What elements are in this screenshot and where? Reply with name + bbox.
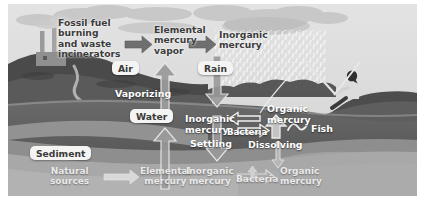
zone-air-label: Air xyxy=(112,61,139,75)
node-elemental-sediment-line1: Elemental xyxy=(140,166,191,176)
node-inorganic-mercury-sediment: Inorganic mercury xyxy=(186,166,234,186)
node-elemental-vapor-line3: vapor xyxy=(154,46,206,56)
node-organic-sediment-line2: mercury xyxy=(280,176,322,186)
node-inorganic-air-line2: mercury xyxy=(219,40,268,50)
node-bacteria-water: Bacteria xyxy=(227,128,267,138)
node-inorganic-sediment-line1: Inorganic xyxy=(186,166,234,176)
zone-water-label: Water xyxy=(130,109,173,123)
process-dissolving: Dissolving xyxy=(248,140,303,151)
zone-rain-label: Rain xyxy=(198,61,233,75)
node-organic-mercury-water: Organic mercury xyxy=(267,104,311,125)
node-organic-sediment-line1: Organic xyxy=(280,166,322,176)
node-elemental-sediment-line2: mercury xyxy=(140,176,191,186)
zone-sediment-label: Sediment xyxy=(30,146,91,160)
node-inorganic-water-line1: Inorganic xyxy=(185,114,235,125)
node-inorganic-sediment-line2: mercury xyxy=(186,176,234,186)
node-organic-mercury-sediment: Organic mercury xyxy=(280,166,322,186)
node-natural-sources-line2: sources xyxy=(50,176,89,186)
node-bacteria-sediment: Bacteria xyxy=(236,174,278,184)
process-settling: Settling xyxy=(190,139,232,150)
node-natural-sources-line1: Natural xyxy=(50,166,89,176)
node-elemental-mercury-vapor: Elemental mercury vapor xyxy=(154,25,206,56)
node-elemental-mercury-sediment: Elemental mercury xyxy=(140,166,191,186)
mercury-cycle-diagram: Fossil fuel burning and waste incinerato… xyxy=(8,4,417,196)
node-fossil-fuel-line4: incinerators xyxy=(58,49,121,59)
node-organic-water-line1: Organic xyxy=(267,104,311,115)
process-vaporizing: Vaporizing xyxy=(115,89,171,100)
node-fossil-fuel: Fossil fuel burning and waste incinerato… xyxy=(58,18,121,59)
node-fish: Fish xyxy=(311,124,333,135)
node-organic-water-line2: mercury xyxy=(267,115,311,126)
node-natural-sources: Natural sources xyxy=(50,166,89,186)
node-inorganic-mercury-air: Inorganic mercury xyxy=(219,30,268,51)
